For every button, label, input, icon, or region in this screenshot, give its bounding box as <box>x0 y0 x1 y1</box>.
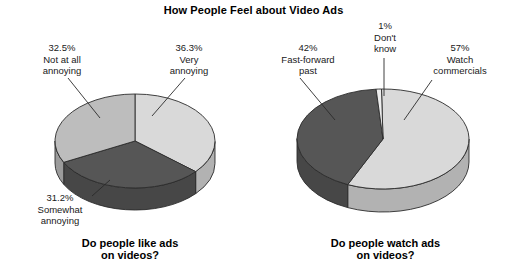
pie-charts-svg <box>0 0 507 269</box>
caption-left-line2: on videos? <box>25 249 235 261</box>
slice-label-line1: Don't <box>359 32 411 44</box>
caption-right-line2: on videos? <box>278 249 493 261</box>
caption-right-line1: Do people watch ads <box>278 237 493 249</box>
slice-label-pct: 36.3% <box>146 42 232 54</box>
caption-right: Do people watch ads on videos? <box>278 237 493 261</box>
pie-chart-right <box>297 89 469 212</box>
slice-label-pct: 32.5% <box>14 42 110 54</box>
figure-container: How People Feel about Video Ads 32.5% No… <box>0 0 507 269</box>
slice-label-pct: 1% <box>359 20 411 32</box>
slice-label-fast-forward-past: 42% Fast-forward past <box>254 42 362 77</box>
slice-label-line2: annoying <box>6 215 114 227</box>
slice-label-line1: Not at all <box>14 54 110 66</box>
slice-label-line1: Fast-forward <box>254 54 362 66</box>
slice-label-line1: Watch <box>414 54 506 66</box>
slice-label-line2: annoying <box>14 65 110 77</box>
slice-label-pct: 57% <box>414 42 506 54</box>
caption-left-line1: Do people like ads <box>25 237 235 249</box>
slice-label-line1: Very <box>146 54 232 66</box>
slice-label-line2: annoying <box>146 65 232 77</box>
slice-label-line2: commercials <box>414 65 506 77</box>
slice-label-watch-commercials: 57% Watch commercials <box>414 42 506 77</box>
caption-left: Do people like ads on videos? <box>25 237 235 261</box>
slice-label-line1: Somewhat <box>6 204 114 216</box>
slice-label-pct: 31.2% <box>6 192 114 204</box>
slice-label-very-annoying: 36.3% Very annoying <box>146 42 232 77</box>
slice-label-line2: past <box>254 65 362 77</box>
slice-label-somewhat-annoying: 31.2% Somewhat annoying <box>6 192 114 227</box>
slice-label-pct: 42% <box>254 42 362 54</box>
slice-label-line2: know <box>359 43 411 55</box>
slice-label-not-at-all-annoying: 32.5% Not at all annoying <box>14 42 110 77</box>
slice-label-dont-know: 1% Don't know <box>359 20 411 55</box>
